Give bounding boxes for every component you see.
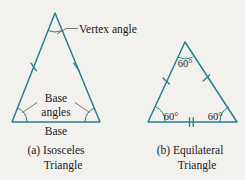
caption-b-line2: Triangle (178, 159, 217, 172)
caption-a-line1: (a) Isosceles (27, 144, 85, 157)
base-angles-label-line1: Base (45, 92, 67, 104)
base-angles-leader-right (75, 103, 90, 113)
apex-angle-label: 60° (178, 58, 193, 69)
base-right-angle-label: 60° (208, 111, 223, 122)
caption-b-line1: (b) Equilateral (157, 144, 224, 157)
figure-canvas: Vertex angle Base angles Base (a) Isosce… (0, 0, 245, 180)
base-left-angle-label: 60° (164, 111, 179, 122)
caption-a-line2: Triangle (44, 159, 83, 172)
equilateral-triangle-outline (148, 42, 237, 122)
triangle-figure: Vertex angle Base angles Base (a) Isosce… (0, 0, 245, 180)
base-label: Base (45, 125, 67, 137)
equilateral-triangle-group (148, 42, 237, 126)
leg-left-tick-mark (31, 63, 36, 71)
base-angles-leader-left (23, 103, 38, 113)
base-angles-label-line2: angles (41, 106, 71, 119)
vertex-angle-label: Vertex angle (79, 23, 137, 36)
